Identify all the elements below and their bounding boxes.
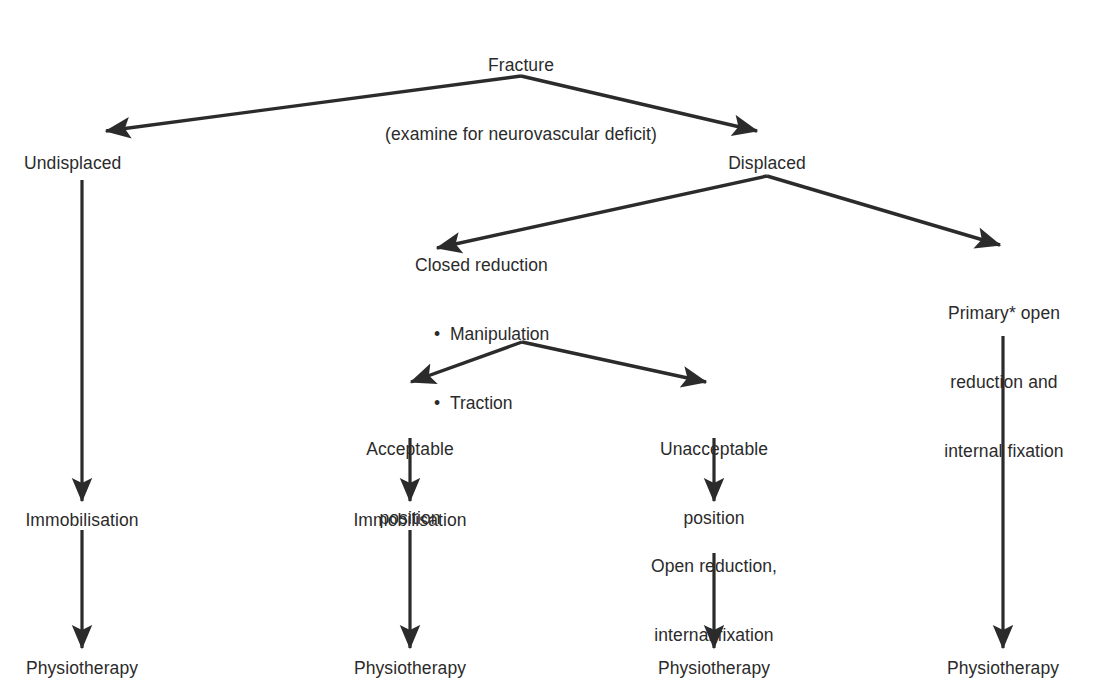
node-orif-line1: Open reduction, [651, 555, 777, 578]
node-physiotherapy-col2: Physiotherapy [354, 657, 466, 680]
node-physiotherapy-col3: Physiotherapy [658, 657, 770, 680]
node-undisplaced: Undisplaced [24, 152, 121, 175]
edge-closed-reduction-to-unacceptable [522, 342, 706, 382]
node-fracture-line1: Fracture [385, 54, 657, 77]
fracture-management-flowchart: Fracture (examine for neurovascular defi… [0, 0, 1095, 693]
node-primary-orif-line2: reduction and [944, 371, 1063, 394]
node-physiotherapy-col1: Physiotherapy [26, 657, 138, 680]
node-acceptable-line1: Acceptable [366, 438, 454, 461]
node-acceptable-position: Acceptable position [366, 392, 454, 576]
node-displaced: Displaced [728, 152, 806, 175]
bullet-dot-icon: • [434, 323, 450, 346]
node-closed-reduction-heading: Closed reduction [415, 254, 548, 277]
node-immobilisation-col2: Immobilisation [353, 509, 466, 532]
bullet-label-manipulation: Manipulation [450, 324, 549, 344]
node-physiotherapy-col4: Physiotherapy [947, 657, 1059, 680]
node-orif-line2: internal fixation [651, 624, 777, 647]
bullet-label-traction: Traction [450, 393, 513, 413]
edge-displaced-to-primary-orif [767, 176, 1000, 245]
node-unacceptable-line1: Unacceptable [660, 438, 768, 461]
node-primary-orif-line3: internal fixation [944, 440, 1063, 463]
node-primary-open-reduction: Primary* open reduction and internal fix… [944, 256, 1063, 509]
node-immobilisation-col1: Immobilisation [25, 509, 138, 532]
node-fracture-line2: (examine for neurovascular deficit) [385, 123, 657, 146]
bullet-row-manipulation: •Manipulation [434, 323, 549, 346]
node-fracture: Fracture (examine for neurovascular defi… [385, 8, 657, 192]
node-primary-orif-line1: Primary* open [944, 302, 1063, 325]
